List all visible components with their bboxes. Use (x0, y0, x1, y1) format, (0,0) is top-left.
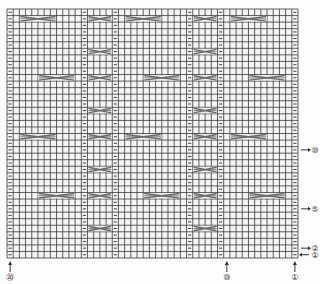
cable-cross-icon (144, 75, 180, 81)
cable-cross-icon (88, 75, 112, 81)
cable-cross-icon (193, 226, 217, 232)
cable-cross-icon (88, 108, 112, 114)
row-label: ⑩ (301, 146, 319, 155)
cable-cross-icon (88, 167, 112, 173)
row-number-label: ⑤ (311, 205, 318, 214)
cable-cross-icon (193, 108, 217, 114)
cable-cross-icon (20, 16, 56, 22)
cable-cross-icon (88, 193, 112, 199)
cable-cross-icon (230, 134, 266, 140)
column-label: ⑳ (6, 261, 14, 282)
column-number-label: ⑩ (223, 273, 230, 282)
column-number-label: ⑳ (6, 273, 14, 282)
cable-cross-icon (193, 134, 217, 140)
column-label: ⑩ (223, 261, 230, 282)
row-number-label: ⑩ (311, 146, 318, 155)
cable-cross-icon (88, 134, 112, 140)
cable-cross-icon (125, 16, 161, 22)
knitting-chart: ⑩⑤②①⑳⑩① (0, 0, 320, 284)
chart-grid (7, 9, 298, 258)
column-number-label: ① (291, 273, 298, 282)
cable-cross-icon (125, 134, 161, 140)
cable-cross-icon (20, 134, 56, 140)
cable-cross-icon (193, 75, 217, 81)
cable-cross-icon (193, 49, 217, 55)
row-label: ① (299, 251, 319, 260)
cable-cross-icon (193, 16, 217, 22)
cable-cross-icon (193, 193, 217, 199)
cable-cross-icon (88, 226, 112, 232)
cable-cross-icon (38, 193, 74, 199)
row-number-label: ① (311, 251, 318, 260)
cable-cross-icon (193, 167, 217, 173)
cable-cross-icon (38, 75, 74, 81)
column-label: ① (291, 261, 298, 282)
row-label: ⑤ (301, 205, 319, 214)
cable-cross-icon (88, 16, 112, 22)
cable-cross-icon (230, 16, 266, 22)
cable-cross-icon (144, 193, 180, 199)
cable-cross-icon (249, 193, 285, 199)
cable-cross-icon (88, 49, 112, 55)
cable-cross-icon (249, 75, 285, 81)
